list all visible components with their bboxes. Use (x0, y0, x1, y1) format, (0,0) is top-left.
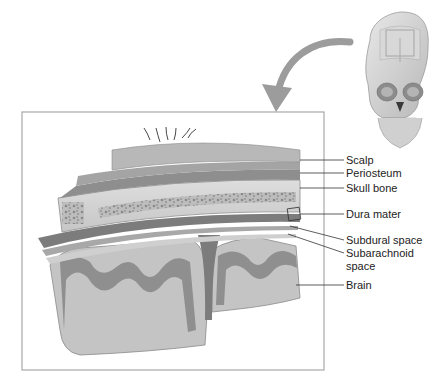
curved-arrow (262, 42, 350, 112)
label-dura-mater: Dura mater (346, 208, 401, 220)
label-scalp: Scalp (346, 154, 374, 166)
label-subdural-space: Subdural space (346, 234, 422, 246)
label-periosteum: Periosteum (346, 167, 402, 179)
label-subarachnoid-space-cont: space (346, 260, 375, 272)
skull-illustration (366, 12, 428, 148)
label-subarachnoid-space: Subarachnoid (346, 247, 414, 259)
label-skull-bone: Skull bone (346, 182, 397, 194)
meninges-diagram (0, 0, 444, 390)
label-brain: Brain (346, 279, 372, 291)
